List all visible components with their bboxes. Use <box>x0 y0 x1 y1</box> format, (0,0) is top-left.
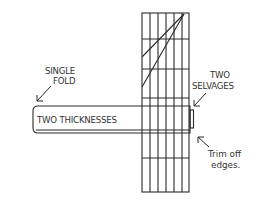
label-two-selvages-line2: SELVAGES <box>192 81 234 91</box>
label-trim-off-line2: edges. <box>211 160 240 170</box>
label-two-selvages-line1: TWO <box>209 70 230 80</box>
label-trim-off-line1: Trim off <box>207 149 242 159</box>
label-single-fold-line2: FOLD <box>53 76 76 86</box>
two-selvages-arrow-icon <box>194 93 206 106</box>
label-single-fold-line1: SINGLE <box>45 66 75 76</box>
selvage-flap <box>190 110 194 128</box>
fabric-cutting-diagram: SINGLE FOLD TWO SELVAGES TWO THICKNESSES… <box>0 0 267 206</box>
label-two-thicknesses: TWO THICKNESSES <box>36 115 117 125</box>
labels: SINGLE FOLD TWO SELVAGES TWO THICKNESSES… <box>36 66 242 170</box>
single-fold-arrow-icon <box>37 86 51 101</box>
grid-ruler <box>142 13 189 192</box>
trim-off-arrow-icon <box>198 137 209 147</box>
